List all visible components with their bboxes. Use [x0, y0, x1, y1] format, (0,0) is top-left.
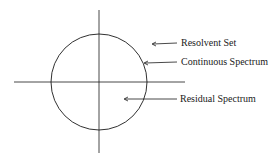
label-residual-spectrum: Residual Spectrum	[180, 93, 256, 104]
label-continuous-spectrum: Continuous Spectrum	[181, 56, 268, 67]
arrow-residual-icon	[124, 97, 177, 101]
label-resolvent-set: Resolvent Set	[181, 37, 236, 48]
arrow-resolvent-icon	[152, 42, 177, 46]
spectrum-diagram: Resolvent Set Continuous Spectrum Residu…	[0, 0, 280, 161]
arrow-continuous-icon	[144, 61, 177, 65]
